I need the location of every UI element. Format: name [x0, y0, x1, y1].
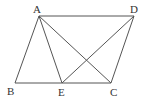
- label-D: D: [130, 3, 138, 15]
- label-A: A: [33, 3, 41, 15]
- segment-AB: [15, 16, 39, 83]
- geometry-figure: A B C D E: [0, 0, 148, 101]
- label-B: B: [7, 85, 14, 97]
- label-C: C: [110, 86, 117, 98]
- segment-DE: [62, 16, 134, 83]
- segment-AC: [39, 16, 111, 83]
- segments: [15, 16, 134, 83]
- parallelogram-diagram: A B C D E: [0, 0, 148, 101]
- label-E: E: [58, 86, 65, 98]
